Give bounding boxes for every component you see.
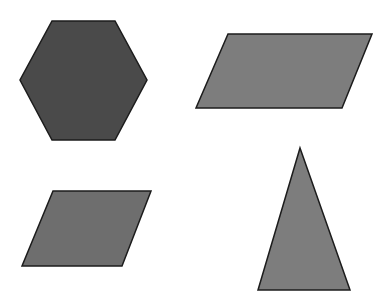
shapes-canvas — [0, 0, 387, 299]
parallelogram-top-right-shape — [196, 34, 372, 108]
shapes-svg — [0, 0, 387, 299]
